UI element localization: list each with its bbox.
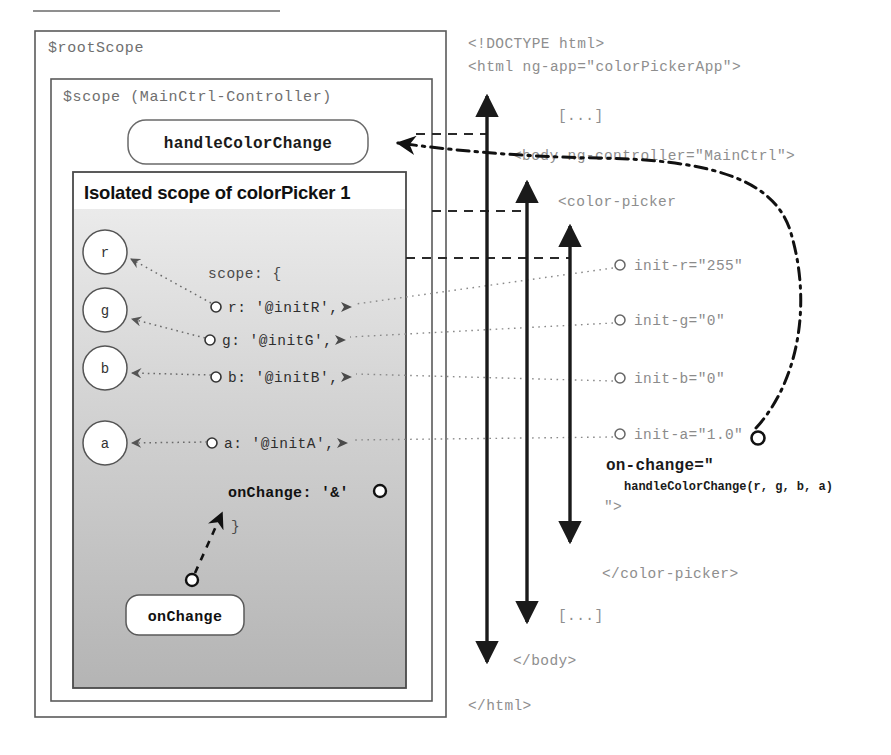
circle-b-label: b [101, 361, 109, 377]
code-html-open: <html ng-app="colorPickerApp"> [468, 59, 741, 75]
on-change-box-label: onChange [148, 609, 222, 626]
scope-open-label: scope: { [208, 266, 282, 282]
circle-a-label: a [101, 436, 109, 452]
code-on-change-close: "> [604, 499, 622, 515]
root-scope-label: $rootScope [48, 40, 144, 57]
callback-curve [398, 143, 801, 428]
scope-prop-onchange: onChange: '&' [228, 485, 349, 502]
scope-prop-b: b: '@initB', [228, 370, 338, 386]
scope-prop-a: a: '@initA', [224, 436, 334, 452]
code-init-b: init-b="0" [634, 371, 725, 387]
code-ellipsis-bottom: [...] [558, 608, 604, 624]
color-picker-attributes: init-r="255" init-g="0" init-b="0" init-… [615, 258, 743, 443]
scope-prop-r: r: '@initR', [228, 300, 338, 316]
code-init-g: init-g="0" [634, 313, 725, 329]
socket-init-a [615, 429, 625, 439]
scope-close-label: } [231, 519, 240, 535]
code-ellipsis-top: [...] [558, 108, 604, 124]
code-init-a: init-a="1.0" [634, 427, 743, 443]
socket-r [211, 302, 221, 312]
socket-init-r [615, 260, 625, 270]
handle-color-change-label: handleColorChange [164, 135, 332, 153]
scope-binding-diagram: $rootScope $scope (MainCtrl-Controller) … [0, 0, 891, 755]
code-on-change-attr: on-change=" [606, 457, 714, 475]
code-doctype: <!DOCTYPE html> [468, 36, 605, 52]
controller-scope-label: $scope (MainCtrl-Controller) [63, 89, 332, 106]
socket-onchange-scope [374, 485, 386, 497]
code-init-r: init-r="255" [634, 258, 743, 274]
socket-init-g [615, 315, 625, 325]
socket-on-change-attr [752, 432, 765, 445]
socket-a [207, 438, 217, 448]
isolated-scope-title: Isolated scope of colorPicker 1 [84, 182, 350, 203]
scope-prop-g: g: '@initG', [222, 333, 332, 349]
socket-b [211, 372, 221, 382]
code-body-close: </body> [513, 653, 577, 669]
circle-g-label: g [101, 303, 109, 319]
code-on-change-call: handleColorChange(r, g, b, a) [624, 480, 833, 494]
code-colorpicker-open: <color-picker [558, 194, 676, 210]
code-colorpicker-close: </color-picker> [602, 566, 739, 582]
socket-g [205, 335, 215, 345]
code-html-close: </html> [468, 698, 532, 714]
socket-onchange-box [186, 574, 198, 586]
circle-r-label: r [101, 245, 109, 261]
socket-init-b [615, 373, 625, 383]
